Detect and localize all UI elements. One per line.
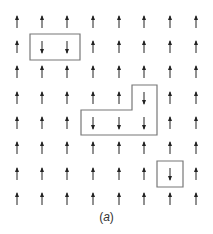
spin-up-arrow-icon [40,91,44,104]
caption-paren-close: ) [110,210,114,224]
spin-up-arrow-icon [15,192,19,205]
spin-up-arrow-icon [194,91,198,104]
spin-up-arrow-icon [65,91,69,104]
spin-up-arrow-icon [194,167,198,180]
spin-up-arrow-icon [15,167,19,180]
spin-down-arrow-icon [142,92,146,105]
spin-up-arrow-icon [142,167,146,180]
spin-up-arrow-icon [194,141,198,154]
spin-up-arrow-icon [15,141,19,154]
spin-up-arrow-icon [168,91,172,104]
spin-up-arrow-icon [65,65,69,78]
spin-up-arrow-icon [194,116,198,129]
spin-up-arrow-icon [117,192,121,205]
spin-up-arrow-icon [142,40,146,53]
spin-up-arrow-icon [65,167,69,180]
spin-up-arrow-icon [15,15,19,28]
spin-up-arrow-icon [117,65,121,78]
spin-up-arrow-icon [142,141,146,154]
flipped-domains [30,34,183,187]
spin-up-arrow-icon [91,91,95,104]
spin-up-arrow-icon [142,15,146,28]
spin-down-arrow-icon [117,117,121,130]
spin-up-arrow-icon [65,141,69,154]
spin-up-arrow-icon [117,15,121,28]
spin-up-arrow-icon [15,40,19,53]
spin-up-arrow-icon [168,15,172,28]
spin-down-arrow-icon [142,117,146,130]
spin-up-arrow-icon [91,141,95,154]
spin-up-arrow-icon [194,192,198,205]
spin-up-arrow-icon [91,192,95,205]
spin-up-arrow-icon [91,167,95,180]
domain-1-outline [30,34,80,60]
spin-up-arrow-icon [168,192,172,205]
spin-up-arrow-icon [194,15,198,28]
spin-up-arrow-icon [117,91,121,104]
spin-up-arrow-icon [194,65,198,78]
spin-down-arrow-icon [40,41,44,54]
spin-up-arrow-icon [40,192,44,205]
spin-up-arrow-icon [40,141,44,154]
spin-down-arrow-icon [65,41,69,54]
spin-up-arrow-icon [91,65,95,78]
spin-up-arrow-icon [117,141,121,154]
spin-up-arrow-icon [168,40,172,53]
spin-up-arrow-icon [40,116,44,129]
spin-up-arrow-icon [117,40,121,53]
spin-up-arrow-icon [142,65,146,78]
spin-up-arrow-icon [40,167,44,180]
spin-up-arrow-icon [40,15,44,28]
spin-down-arrow-icon [91,117,95,130]
spin-up-arrow-icon [168,141,172,154]
spin-up-arrow-icon [15,116,19,129]
caption-letter: a [103,210,110,224]
spin-up-arrow-icon [15,65,19,78]
spin-up-arrow-icon [142,192,146,205]
spin-up-arrow-icon [65,116,69,129]
spin-up-arrow-icon [40,65,44,78]
spin-up-arrow-icon [168,116,172,129]
spin-up-arrow-icon [194,40,198,53]
spin-down-arrow-icon [168,168,172,181]
spin-up-arrow-icon [91,15,95,28]
spin-up-arrow-icon [15,91,19,104]
figure-caption: (a) [0,210,213,224]
spin-up-arrow-icon [168,65,172,78]
spin-up-arrow-icon [91,40,95,53]
spin-up-arrow-icon [65,15,69,28]
spin-up-arrow-icon [65,192,69,205]
spin-up-arrow-icon [117,167,121,180]
spin-lattice-diagram [0,0,213,234]
